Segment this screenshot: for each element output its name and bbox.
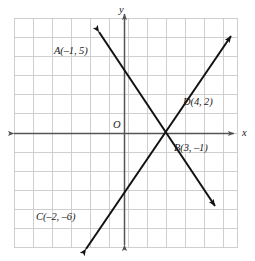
point-label-a: A(–1, 5) — [54, 45, 88, 56]
y-axis-label: y — [119, 4, 124, 15]
x-axis-label: x — [242, 127, 247, 138]
origin-label: O — [113, 119, 121, 130]
point-label-c: C(–2, –6) — [36, 211, 75, 222]
point-label-b: B(3, –1) — [174, 142, 208, 153]
point-label-d: D(4, 2) — [183, 96, 213, 107]
coordinate-graph-figure: A(–1, 5) D(4, 2) B(3, –1) C(–2, –6) O x … — [0, 0, 255, 261]
line-CD — [86, 36, 231, 249]
